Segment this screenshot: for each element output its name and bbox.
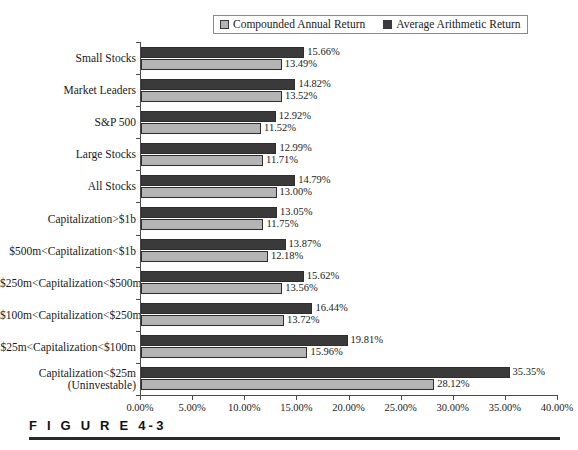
bar [141, 239, 286, 250]
bar-row: 13.52% [141, 91, 558, 102]
bar-value-label: 12.99% [279, 142, 311, 154]
bar [141, 123, 261, 134]
y-axis-category-labels: Small StocksMarket LeadersS&P 500Large S… [0, 42, 136, 395]
chart-legend: Compounded Annual Return Average Arithme… [213, 15, 528, 34]
bar-row: 14.82% [141, 79, 558, 90]
bar-row: 11.71% [141, 155, 558, 166]
bar-row: 11.75% [141, 219, 558, 230]
category-label-line: $250m<Capitalization<$500m [0, 277, 136, 289]
bar-row: 15.62% [141, 271, 558, 282]
bar-group: 14.82%13.52% [141, 79, 558, 102]
bar-value-label: 15.66% [307, 46, 339, 58]
y-axis-tick [136, 267, 140, 268]
bar-row: 13.56% [141, 283, 558, 294]
bar [141, 283, 282, 294]
y-axis-tick [136, 74, 140, 75]
legend-swatch-icon-compounded [220, 20, 229, 29]
category-label-line: Large Stocks [0, 148, 136, 160]
bar-value-label: 15.62% [307, 270, 339, 282]
category-label-line: $500m<Capitalization<$1b [0, 245, 136, 257]
category-label-line: $100m<Capitalization<$250m [0, 309, 136, 321]
y-axis-tick [136, 235, 140, 236]
category-label-line: Capitalization<$25m [0, 367, 136, 379]
bar-value-label: 12.18% [271, 250, 303, 262]
bar [141, 207, 277, 218]
bar-row: 15.96% [141, 347, 558, 358]
bar [141, 79, 295, 90]
bar-group: 13.05%11.75% [141, 207, 558, 230]
x-axis-tick-label: 20.00% [332, 402, 364, 413]
legend-entry-compounded-annual-return: Compounded Annual Return [220, 19, 365, 31]
y-axis-category-label: $250m<Capitalization<$500m [0, 277, 136, 289]
y-axis-category-label: S&P 500 [0, 116, 136, 128]
bar-row: 28.12% [141, 379, 558, 390]
bar-value-label: 11.71% [266, 154, 298, 166]
x-axis-tick [296, 395, 297, 400]
bar-value-label: 13.87% [289, 238, 321, 250]
bar-value-label: 14.79% [298, 174, 330, 186]
chart-plot-area: 0.00%5.00%10.00%15.00%20.00%25.00%30.00%… [140, 42, 558, 395]
x-axis-tick [140, 395, 141, 400]
y-axis-category-label: Large Stocks [0, 148, 136, 160]
y-axis-category-label: Capitalization<$25m(Uninvestable) [0, 367, 136, 391]
bar [141, 271, 304, 282]
bar [141, 379, 434, 390]
x-axis-tick [557, 395, 558, 400]
x-axis-tick-label: 30.00% [437, 402, 469, 413]
y-axis-category-label: $500m<Capitalization<$1b [0, 245, 136, 257]
bar-row: 15.66% [141, 47, 558, 58]
bar-row: 13.72% [141, 315, 558, 326]
bar [141, 47, 304, 58]
category-label-line: All Stocks [0, 180, 136, 192]
bar-group: 13.87%12.18% [141, 239, 558, 262]
y-axis-tick [136, 395, 140, 396]
y-axis-category-label: Market Leaders [0, 84, 136, 96]
bar-value-label: 13.49% [285, 58, 317, 70]
bar-value-label: 19.81% [351, 334, 383, 346]
bar-group: 12.99%11.71% [141, 143, 558, 166]
caption-divider [29, 437, 560, 440]
x-axis-tick-label: 40.00% [541, 402, 573, 413]
bar-row: 12.99% [141, 143, 558, 154]
bar-group: 19.81%15.96% [141, 335, 558, 358]
y-axis-category-label: Capitalization>$1b [0, 213, 136, 225]
legend-entry-average-arithmetic-return: Average Arithmetic Return [383, 19, 520, 31]
bar-group: 12.92%11.52% [141, 111, 558, 134]
y-axis-category-label: Small Stocks [0, 52, 136, 64]
x-axis-tick-label: 35.00% [489, 402, 521, 413]
category-label-line: (Uninvestable) [0, 379, 136, 391]
bar-value-label: 35.35% [513, 366, 545, 378]
bar-group: 15.62%13.56% [141, 271, 558, 294]
bar-value-label: 12.92% [279, 110, 311, 122]
x-axis-tick-label: 0.00% [126, 402, 153, 413]
x-axis-tick [401, 395, 402, 400]
bar-value-label: 16.44% [315, 302, 347, 314]
bar-row: 14.79% [141, 175, 558, 186]
legend-label-average: Average Arithmetic Return [396, 19, 520, 31]
bar-value-label: 13.72% [287, 314, 319, 326]
bar-value-label: 13.56% [285, 282, 317, 294]
bar [141, 219, 263, 230]
bar-row: 13.87% [141, 239, 558, 250]
x-axis-tick-label: 10.00% [228, 402, 260, 413]
y-axis-tick [136, 202, 140, 203]
bar [141, 59, 282, 70]
bar-row: 13.00% [141, 187, 558, 198]
y-axis-category-label: All Stocks [0, 180, 136, 192]
bar [141, 143, 276, 154]
x-axis-tick-label: 5.00% [179, 402, 206, 413]
bar-row: 35.35% [141, 367, 558, 378]
bar-row: 13.05% [141, 207, 558, 218]
category-label-line: Small Stocks [0, 52, 136, 64]
category-label-line: $25m<Capitalization<$100m [0, 341, 136, 353]
x-axis-tick-label: 25.00% [384, 402, 416, 413]
bar-value-label: 28.12% [437, 378, 469, 390]
bar [141, 315, 284, 326]
x-axis-tick-label: 15.00% [280, 402, 312, 413]
category-label-line: S&P 500 [0, 116, 136, 128]
bar [141, 335, 348, 346]
legend-label-compounded: Compounded Annual Return [233, 19, 365, 31]
bar-row: 12.18% [141, 251, 558, 262]
bar-value-label: 13.05% [280, 206, 312, 218]
y-axis-tick [136, 106, 140, 107]
